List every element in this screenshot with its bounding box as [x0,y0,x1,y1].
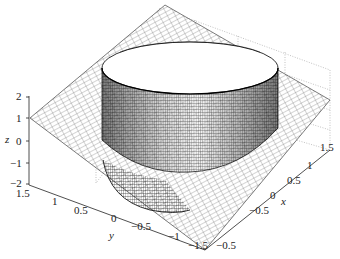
x-tick: −0.5 [216,240,236,251]
y-axis-label: y [109,230,114,241]
x-tick: 1 [307,160,313,171]
z-tick: 0 [16,136,22,147]
y-tick: −1 [168,231,180,242]
y-tick: −1.5 [188,240,208,251]
y-tick: 1.5 [16,188,30,199]
y-tick: 1 [52,196,58,207]
z-tick: 2 [16,91,22,102]
z-tick: −1 [10,158,22,169]
x-tick: −0.5 [249,205,269,216]
y-tick: 0 [111,213,117,224]
y-tick: 0.5 [74,205,88,216]
z-axis-label: z [5,134,9,145]
x-tick: 0 [270,190,276,201]
3d-surface-plot [0,0,340,259]
x-tick: 1.5 [320,142,334,153]
y-tick: −0.5 [131,221,151,232]
x-tick: 0.5 [287,175,301,186]
x-axis-label: x [281,196,286,207]
z-tick: 1 [16,113,22,124]
